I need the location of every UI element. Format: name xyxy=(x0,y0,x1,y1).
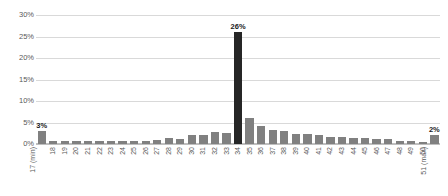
x-axis-slot: 34 xyxy=(232,146,244,196)
x-axis-tick-label: 45 xyxy=(361,147,368,155)
bar-slot xyxy=(140,15,152,144)
bar-slot xyxy=(186,15,198,144)
bar xyxy=(419,142,427,144)
bar-slot xyxy=(302,15,314,144)
x-axis-slot: 25 xyxy=(128,146,140,196)
bar-slot xyxy=(244,15,256,144)
x-axis-tick-label: 51 (max) xyxy=(421,147,428,175)
bar: 2% xyxy=(430,135,438,144)
x-axis-tick-label: 42 xyxy=(327,147,334,155)
x-axis-tick-label: 17 (min) xyxy=(29,147,36,173)
bar xyxy=(211,132,219,144)
bar-slot xyxy=(348,15,360,144)
x-axis-slot: 44 xyxy=(348,146,360,196)
bar-slot: 2% xyxy=(429,15,441,144)
x-axis-tick-label: 19 xyxy=(61,147,68,155)
y-axis-tick-label: 30% xyxy=(0,11,34,19)
bar-slot xyxy=(71,15,83,144)
bar-slot: 3% xyxy=(36,15,48,144)
bar-slot xyxy=(128,15,140,144)
x-axis-tick-label: 38 xyxy=(280,147,287,155)
x-axis-slot: 30 xyxy=(186,146,198,196)
x-axis-tick-label: 21 xyxy=(84,147,91,155)
x-axis: 17 (min)18192021222324252627282930313233… xyxy=(36,146,440,196)
x-axis-tick-label: 35 xyxy=(246,147,253,155)
x-axis-tick-label: 47 xyxy=(384,147,391,155)
x-axis-tick-label: 44 xyxy=(350,147,357,155)
x-axis-slot: 37 xyxy=(267,146,279,196)
bar-slot xyxy=(325,15,337,144)
bar-slot xyxy=(163,15,175,144)
bar-slot xyxy=(313,15,325,144)
x-axis-tick-label: 40 xyxy=(303,147,310,155)
bar-slot xyxy=(290,15,302,144)
x-axis-tick-label: 31 xyxy=(200,147,207,155)
bar-slot xyxy=(151,15,163,144)
x-axis-tick-label: 48 xyxy=(396,147,403,155)
bar-slot xyxy=(221,15,233,144)
x-axis-slot: 28 xyxy=(163,146,175,196)
x-axis-slot: 23 xyxy=(105,146,117,196)
y-axis-tick-label: 25% xyxy=(0,33,34,41)
bar xyxy=(315,135,323,144)
x-axis-slot: 35 xyxy=(244,146,256,196)
bar xyxy=(292,134,300,144)
bar xyxy=(118,141,126,144)
bar-slot xyxy=(105,15,117,144)
bar xyxy=(361,138,369,144)
x-axis-slot: 20 xyxy=(71,146,83,196)
x-axis-slot: 33 xyxy=(221,146,233,196)
x-axis-slot: 24 xyxy=(117,146,129,196)
x-axis-slot: 36 xyxy=(255,146,267,196)
bar xyxy=(407,141,415,144)
x-axis-tick-label: 43 xyxy=(338,147,345,155)
x-axis-tick-label: 23 xyxy=(107,147,114,155)
bar xyxy=(72,141,80,144)
bar-slot xyxy=(394,15,406,144)
bar-slot xyxy=(336,15,348,144)
x-axis-tick-label: 37 xyxy=(269,147,276,155)
x-axis-slot: 47 xyxy=(382,146,394,196)
bar xyxy=(153,140,161,144)
bar xyxy=(188,135,196,144)
x-axis-slot: 21 xyxy=(82,146,94,196)
x-axis-tick-label: 18 xyxy=(49,147,56,155)
x-axis-tick-label: 36 xyxy=(257,147,264,155)
x-axis-slot: 46 xyxy=(371,146,383,196)
bar xyxy=(257,126,265,144)
bar-highlighted: 26% xyxy=(234,32,242,144)
bar xyxy=(245,118,253,144)
x-axis-slot: 18 xyxy=(48,146,60,196)
bar xyxy=(130,141,138,144)
x-axis-slot: 19 xyxy=(59,146,71,196)
bar-slot xyxy=(175,15,187,144)
x-axis-tick-label: 25 xyxy=(130,147,137,155)
bar xyxy=(199,135,207,144)
bar-slot xyxy=(382,15,394,144)
y-axis-tick-label: 5% xyxy=(0,119,34,127)
x-axis-slot: 32 xyxy=(209,146,221,196)
gridline xyxy=(36,144,440,145)
bar-slot xyxy=(359,15,371,144)
x-axis-tick-label: 39 xyxy=(292,147,299,155)
y-axis-tick-label: 15% xyxy=(0,76,34,84)
bar xyxy=(326,137,334,144)
x-axis-tick-label: 32 xyxy=(211,147,218,155)
bar xyxy=(396,141,404,144)
x-axis-tick-label: 20 xyxy=(73,147,80,155)
x-axis-tick-label: 22 xyxy=(96,147,103,155)
x-axis-tick-label: 30 xyxy=(188,147,195,155)
x-axis-slot: 38 xyxy=(278,146,290,196)
x-axis-slot: 40 xyxy=(302,146,314,196)
x-axis-slot: 17 (min) xyxy=(36,146,48,196)
x-axis-tick-label: 34 xyxy=(234,147,241,155)
bar-slot xyxy=(48,15,60,144)
bar-slot xyxy=(278,15,290,144)
x-axis-tick-label: 28 xyxy=(165,147,172,155)
histogram-chart: 3%26%2% 0%5%10%15%20%25%30% 17 (min)1819… xyxy=(0,0,448,196)
x-axis-slot: 22 xyxy=(94,146,106,196)
x-axis-tick-label: 49 xyxy=(407,147,414,155)
bar xyxy=(142,141,150,144)
bar-slot xyxy=(267,15,279,144)
bar xyxy=(372,139,380,144)
